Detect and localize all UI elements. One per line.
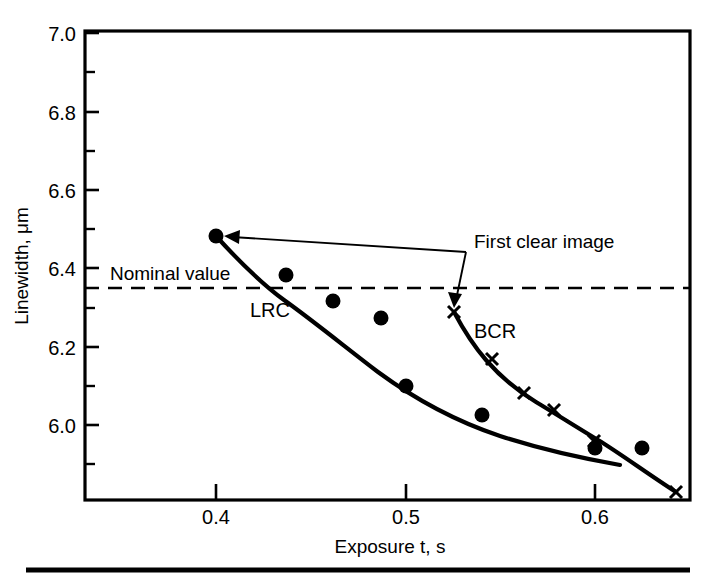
y-tick-label-6-0: 6.0: [48, 415, 76, 437]
lrc-point-4: [374, 311, 389, 326]
linewidth-vs-exposure-chart: 7.0 6.8 6.6 6.4 6.2 6.0 0.4 0.5 0.6 Line…: [0, 0, 714, 583]
x-tick-label-0-4: 0.4: [202, 506, 230, 528]
x-axis-major-ticks: [216, 484, 595, 500]
lrc-point-3: [326, 294, 341, 309]
lrc-point-1: [209, 229, 224, 244]
first-clear-image-label: First clear image: [474, 231, 614, 252]
y-tick-label-6-2: 6.2: [48, 337, 76, 359]
lrc-point-2: [279, 268, 294, 283]
y-axis-title: Linewidth, μm: [11, 207, 32, 325]
lrc-series-label: LRC: [250, 299, 290, 321]
lrc-trend-curve: [216, 236, 620, 465]
figure-container: 7.0 6.8 6.6 6.4 6.2 6.0 0.4 0.5 0.6 Line…: [0, 0, 714, 583]
first-clear-image-annotation: [224, 230, 466, 308]
y-tick-label-7-0: 7.0: [48, 23, 76, 45]
arrow-head-bcr: [448, 292, 462, 308]
x-tick-label-0-5: 0.5: [392, 506, 420, 528]
y-tick-label-6-6: 6.6: [48, 180, 76, 202]
arrow-head-lrc: [224, 230, 240, 244]
nominal-value-label: Nominal value: [110, 263, 230, 284]
bcr-point-6: [670, 486, 682, 498]
leader-line-to-lrc: [232, 237, 466, 252]
lrc-point-5: [399, 379, 414, 394]
lrc-point-8: [635, 441, 650, 456]
y-tick-label-6-4: 6.4: [48, 258, 76, 280]
x-axis-title: Exposure t, s: [335, 536, 446, 557]
bcr-series-label: BCR: [474, 320, 516, 342]
lrc-point-6: [475, 408, 490, 423]
lrc-data-points: [209, 229, 650, 456]
leader-line-to-bcr: [456, 252, 466, 300]
x-tick-label-0-6: 0.6: [581, 506, 609, 528]
y-tick-label-6-8: 6.8: [48, 102, 76, 124]
